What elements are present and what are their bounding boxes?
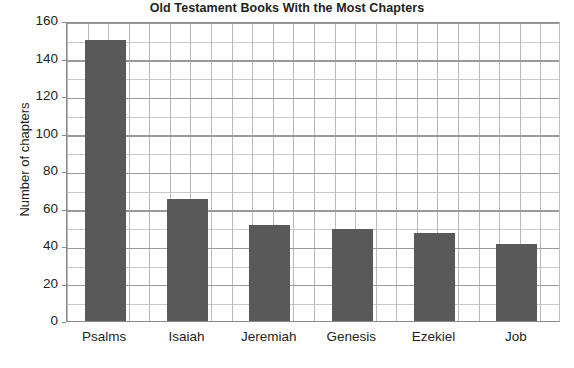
x-tick-label: Jeremiah [223,329,314,344]
y-tick-label: 160 [0,14,58,28]
major-gridlines [67,23,559,321]
x-tick-label: Ezekiel [388,329,479,344]
y-tick-label: 80 [0,164,58,178]
x-axis-tick-labels: PsalmsIsaiahJeremiahGenesisEzekielJob [66,329,560,355]
y-tick-label: 20 [0,277,58,291]
x-tick-label: Isaiah [141,329,232,344]
bar [249,225,290,321]
y-tick-label: 0 [0,314,58,328]
bar [332,229,373,321]
y-tick-label: 100 [0,127,58,141]
plot-area [66,22,560,322]
x-tick-label: Psalms [59,329,150,344]
y-tick-mark [62,322,66,323]
bar [85,40,126,321]
x-tick-label: Genesis [306,329,397,344]
y-tick-label: 40 [0,239,58,253]
x-tick-label: Job [470,329,561,344]
y-tick-label: 140 [0,52,58,66]
y-tick-label: 120 [0,89,58,103]
chart-title: Old Testament Books With the Most Chapte… [0,1,574,15]
y-tick-label: 60 [0,202,58,216]
bar [414,233,455,321]
bar [167,199,208,321]
bar [496,244,537,321]
y-axis-tick-labels: 020406080100120140160 [0,22,60,322]
bar-chart: Old Testament Books With the Most Chapte… [0,0,574,368]
